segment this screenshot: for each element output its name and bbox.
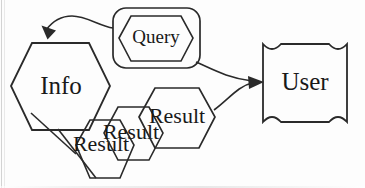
edge-query-to-user [196, 62, 252, 81]
edge-result-to-user [214, 76, 264, 110]
node-info[interactable]: Info [11, 43, 110, 130]
node-info-label: Info [40, 72, 82, 99]
node-result-front[interactable]: Result [139, 88, 215, 148]
node-result-front-label: Result [149, 103, 205, 128]
node-user[interactable]: User [263, 44, 347, 122]
diagram-svg: Result Result Result Info Query User [0, 0, 365, 188]
node-query[interactable]: Query [113, 8, 200, 68]
diagram-canvas: Result Result Result Info Query User [0, 0, 365, 188]
node-user-label: User [281, 68, 329, 95]
scan-artifact-left-secondary [4, 0, 5, 188]
node-query-label: Query [132, 26, 180, 47]
scan-artifact-left [1, 0, 2, 188]
scan-artifact-bottom [0, 186, 365, 188]
edge-query-to-info [42, 16, 114, 40]
arrowhead-to-user [248, 76, 264, 89]
